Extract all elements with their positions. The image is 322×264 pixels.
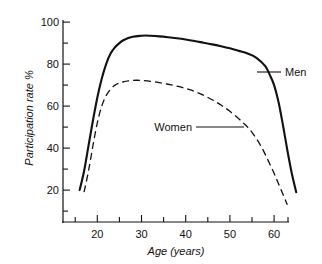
- y-axis-title: Participation rate %: [23, 70, 35, 166]
- y-tick-label-80: 80: [47, 58, 59, 70]
- participation-rate-line-chart: 100 80 60 40 20 20 30 40 50 60 Age (year: [0, 0, 322, 264]
- x-tick-label-60: 60: [268, 228, 280, 240]
- x-tick-label-40: 40: [180, 228, 192, 240]
- x-tick-label-30: 30: [135, 228, 147, 240]
- y-tick-label-100: 100: [41, 16, 59, 28]
- y-tick-label-60: 60: [47, 100, 59, 112]
- x-tick-label-20: 20: [91, 228, 103, 240]
- chart-figure: 100 80 60 40 20 20 30 40 50 60 Age (year: [0, 0, 322, 264]
- series-label-men: Men: [285, 66, 306, 78]
- y-tick-label-20: 20: [47, 184, 59, 196]
- x-axis-title: Age (years): [147, 245, 205, 257]
- series-label-women: Women: [154, 121, 192, 133]
- y-tick-label-40: 40: [47, 142, 59, 154]
- x-tick-label-50: 50: [224, 228, 236, 240]
